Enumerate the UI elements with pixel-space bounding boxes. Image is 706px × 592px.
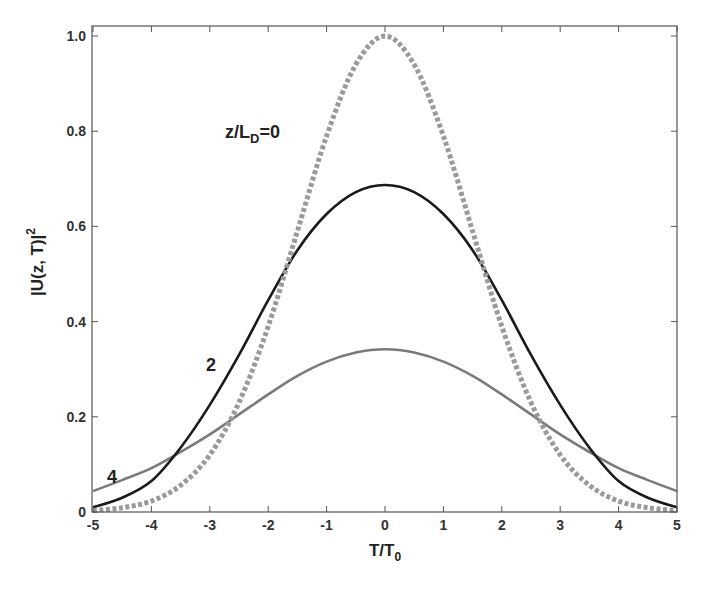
x-tick-label: 4 <box>615 517 623 533</box>
y-tick-label: 1.0 <box>67 28 87 44</box>
x-tick-label: 3 <box>556 517 564 533</box>
y-tick-label: 0 <box>78 504 86 520</box>
y-tick-label: 0.8 <box>67 123 87 139</box>
annotation-z4: 4 <box>107 467 117 487</box>
y-tick-label: 0.6 <box>67 218 87 234</box>
x-tick-label: -2 <box>262 517 275 533</box>
x-tick-label: -1 <box>320 517 333 533</box>
x-tick-label: 0 <box>381 517 389 533</box>
x-tick-label: 1 <box>440 517 448 533</box>
x-tick-label: -3 <box>204 517 217 533</box>
y-axis-label: |U(z, T)|2 <box>24 228 47 296</box>
y-tick-label: 0.4 <box>67 314 87 330</box>
x-tick-label: 5 <box>673 517 681 533</box>
x-tick-label: -4 <box>145 517 158 533</box>
annotation-z2: 2 <box>206 355 216 375</box>
x-tick-label: 2 <box>498 517 506 533</box>
x-tick-label: -5 <box>87 517 100 533</box>
y-tick-label: 0.2 <box>67 409 87 425</box>
pulse-broadening-chart: -5-4-3-2-101234500.20.40.60.81.0 T/T0 |U… <box>0 0 706 592</box>
